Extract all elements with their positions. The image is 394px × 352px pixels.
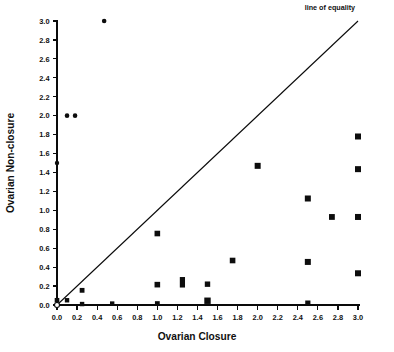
data-point-0-11 [155,282,161,288]
x-tick-label-3: 0.6 [112,313,122,322]
data-point-0-7 [80,288,85,293]
x-tick-label-2: 0.4 [92,313,103,322]
x-tick-label-5: 1.0 [152,313,162,322]
data-point-0-5 [102,19,107,24]
x-tick-label-10: 2.0 [253,313,263,322]
x-tick-label-12: 2.4 [293,313,304,322]
y-tick-label-2: 0.4 [39,263,50,272]
data-point-0-22 [355,133,361,139]
data-point-0-2 [55,161,59,165]
y-tick-label-4: 0.8 [39,225,49,234]
x-tick-label-7: 1.4 [192,313,203,322]
x-axis-title: Ovarian Closure [158,331,237,342]
data-point-0-19 [305,259,311,265]
y-tick-label-14: 2.8 [39,36,49,45]
data-point-0-1 [55,298,60,303]
data-point-0-25 [355,270,361,276]
data-point-0-4 [73,113,78,118]
x-tick-label-13: 2.6 [313,313,323,322]
data-point-0-18 [305,196,311,202]
equality-line-segment [57,21,358,305]
data-point-0-6 [65,298,69,302]
x-axis-tick-labels: 0.00.20.40.60.81.01.21.41.61.82.02.22.42… [52,313,363,322]
line-of-equality [57,21,358,305]
data-point-0-15 [204,298,210,304]
chart-annotations: line of equality [305,3,355,12]
x-tick-label-1: 0.2 [72,313,82,322]
y-tick-label-12: 2.4 [39,74,50,83]
y-tick-label-11: 2.2 [39,93,49,102]
x-tick-label-4: 0.8 [132,313,142,322]
data-point-0-12 [155,301,160,306]
data-point-0-21 [329,214,335,220]
data-point-0-23 [355,166,361,172]
x-tick-label-6: 1.2 [172,313,182,322]
y-tick-label-15: 3.0 [39,17,49,26]
y-tick-label-1: 0.2 [39,282,49,291]
x-tick-label-9: 1.8 [232,313,242,322]
data-point-0-0 [55,303,60,308]
x-tick-label-0: 0.0 [52,313,62,322]
y-tick-label-10: 2.0 [39,111,49,120]
data-point-0-9 [110,301,114,305]
y-tick-label-7: 1.4 [39,168,50,177]
y-tick-label-6: 1.2 [39,187,49,196]
x-tick-label-15: 3.0 [353,313,363,322]
y-tick-label-0: 0.0 [39,301,49,310]
y-tick-label-5: 1.0 [39,206,49,215]
plot-canvas: 0.00.20.40.60.81.01.21.41.61.82.02.22.42… [0,0,394,352]
data-point-0-16 [230,258,236,264]
y-tick-label-3: 0.6 [39,244,49,253]
data-point-0-17 [255,163,261,169]
annotation-0: line of equality [305,3,355,12]
y-tick-label-9: 1.8 [39,130,49,139]
y-axis-title: Ovarian Non-closure [5,113,16,214]
data-point-0-14 [205,281,210,286]
data-point-0-20 [305,301,310,306]
x-tick-label-11: 2.2 [273,313,283,322]
data-point-0-10 [155,231,161,237]
data-point-0-24 [355,214,361,220]
y-tick-label-13: 2.6 [39,55,49,64]
data-point-0-8 [80,302,84,306]
x-tick-label-8: 1.6 [212,313,222,322]
x-tick-label-14: 2.8 [333,313,343,322]
data-point-0-13 [180,277,185,288]
data-point-0-3 [65,113,70,118]
y-axis-tick-labels: 0.00.20.40.60.81.01.21.41.61.82.02.22.42… [39,17,50,310]
scatter-plot-figure: 0.00.20.40.60.81.01.21.41.61.82.02.22.42… [0,0,394,352]
y-tick-label-8: 1.6 [39,149,49,158]
